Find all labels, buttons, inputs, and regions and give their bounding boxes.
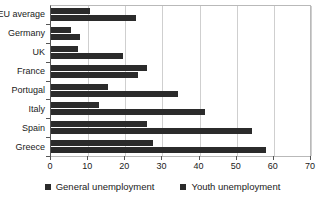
x-axis-tick-label: 50 <box>231 161 241 172</box>
x-axis-tick-label: 30 <box>156 161 166 172</box>
category-label: Greece <box>15 142 45 152</box>
bar-group <box>51 63 310 82</box>
bar <box>51 34 80 40</box>
x-axis-tick <box>273 156 274 160</box>
bar <box>51 128 252 134</box>
bar <box>51 102 99 108</box>
chart-legend: General unemploymentYouth unemployment <box>0 181 325 192</box>
bar <box>51 109 205 115</box>
bar-group <box>51 138 310 157</box>
x-axis-tick <box>236 156 237 160</box>
x-axis-tick-label: 20 <box>119 161 129 172</box>
bar <box>51 84 108 90</box>
legend-item: General unemployment <box>45 181 155 192</box>
gridline <box>311 6 312 156</box>
bar-group <box>51 100 310 119</box>
bar-group <box>51 119 310 138</box>
x-axis: 010203040506070 <box>50 156 311 176</box>
x-axis-tick <box>50 156 51 160</box>
x-axis-tick-label: 0 <box>47 161 52 172</box>
x-axis-tick-label: 10 <box>82 161 92 172</box>
bar <box>51 46 78 52</box>
category-label: UK <box>32 47 45 57</box>
bar-rows <box>51 6 310 156</box>
bar <box>51 147 266 153</box>
bar <box>51 91 178 97</box>
bar-chart: EU averageGermanyUKFrancePortugalItalySp… <box>0 0 325 204</box>
plot-area <box>50 5 311 157</box>
legend-label: Youth unemployment <box>191 181 280 192</box>
bar <box>51 72 138 78</box>
bar <box>51 8 90 14</box>
bar <box>51 27 71 33</box>
bar <box>51 65 147 71</box>
x-axis-tick <box>124 156 125 160</box>
y-axis-category-labels: EU averageGermanyUKFrancePortugalItalySp… <box>0 5 48 157</box>
square-marker-icon <box>180 184 186 190</box>
legend-label: General unemployment <box>56 181 155 192</box>
category-label: Spain <box>22 123 45 133</box>
bar <box>51 121 147 127</box>
bar <box>51 140 153 146</box>
bar-group <box>51 44 310 63</box>
square-marker-icon <box>45 184 51 190</box>
x-axis-tick <box>310 156 311 160</box>
x-axis-tick-label: 70 <box>305 161 315 172</box>
bar-group <box>51 6 310 25</box>
x-axis-tick-label: 40 <box>194 161 204 172</box>
x-axis-tick <box>199 156 200 160</box>
bar <box>51 15 136 21</box>
category-label: Italy <box>28 104 45 114</box>
x-axis-tick <box>87 156 88 160</box>
category-label: France <box>17 66 45 76</box>
bar <box>51 53 123 59</box>
category-label: Germany <box>8 28 45 38</box>
bar-group <box>51 25 310 44</box>
x-axis-tick-label: 60 <box>268 161 278 172</box>
category-label: Portugal <box>11 85 45 95</box>
bar-group <box>51 82 310 101</box>
legend-item: Youth unemployment <box>180 181 280 192</box>
category-label: EU average <box>0 9 45 19</box>
x-axis-tick <box>161 156 162 160</box>
